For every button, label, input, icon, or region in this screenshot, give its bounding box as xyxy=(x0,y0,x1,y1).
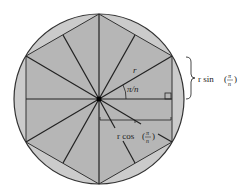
center-point xyxy=(97,97,102,102)
diagram: r π/n r sin ( π n ) r cos ( π n ) xyxy=(0,0,243,196)
right-brace xyxy=(186,57,195,99)
close-paren: ) xyxy=(234,74,237,84)
svg-text:(: ( xyxy=(142,131,145,141)
adjacent-label: r cos xyxy=(117,131,135,141)
opposite-label: r sin xyxy=(198,74,214,84)
cos-frac-den: n xyxy=(146,138,149,144)
sin-frac-den: n xyxy=(228,81,231,87)
open-paren: ( xyxy=(224,74,227,84)
radius-label: r xyxy=(133,65,137,75)
sin-frac-num: π xyxy=(228,73,232,79)
angle-label: π/n xyxy=(127,84,139,94)
svg-text:): ) xyxy=(152,131,155,141)
